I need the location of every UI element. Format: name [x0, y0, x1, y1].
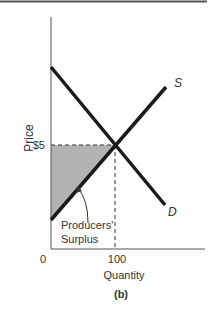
surplus-label-line1: Producers' — [61, 219, 113, 231]
x-axis-label: Quantity — [104, 269, 145, 281]
surplus-label-line2: Surplus — [61, 233, 99, 245]
x-tick-0: 0 — [40, 253, 46, 265]
supply-label: S — [174, 76, 182, 90]
surplus-arrow — [78, 188, 88, 223]
figure-caption: (b) — [114, 288, 128, 300]
producers-surplus-chart: Price $5 S D Producers' Surplus 0 100 Qu… — [0, 0, 216, 318]
demand-label: D — [168, 205, 177, 219]
y-tick-5: $5 — [33, 139, 45, 151]
x-tick-100: 100 — [108, 253, 126, 265]
